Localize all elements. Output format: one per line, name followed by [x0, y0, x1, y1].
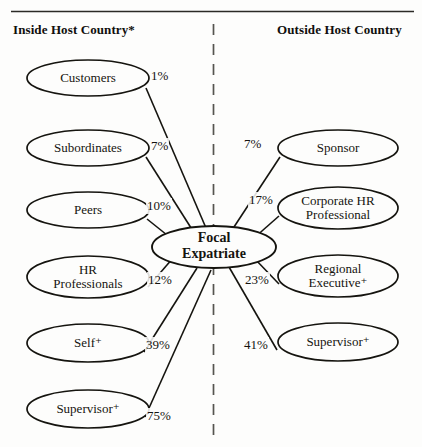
percent-supervisor-out: 41% [243, 337, 269, 353]
ellipses-inside [27, 60, 149, 428]
figure-root: Inside Host Country* Outside Host Countr… [0, 0, 422, 447]
node-sponsor[interactable] [278, 130, 398, 166]
percent-corporate-hr: 17% [248, 192, 274, 208]
node-focal-expatriate[interactable] [152, 226, 276, 268]
percent-regional-executive: 23% [244, 272, 270, 288]
node-regional-executive[interactable] [278, 255, 398, 297]
diagram-canvas [0, 0, 422, 447]
node-supervisor-in[interactable] [27, 390, 149, 428]
percent-hr-professionals: 12% [147, 272, 173, 288]
node-self[interactable] [27, 324, 149, 362]
header-outside-host-country: Outside Host Country [277, 22, 402, 38]
percent-sponsor: 7% [243, 136, 262, 152]
node-peers[interactable] [27, 192, 149, 228]
node-subordinates[interactable] [27, 130, 149, 166]
percent-self: 39% [145, 337, 171, 353]
percent-supervisor-in: 75% [146, 408, 172, 424]
node-customers[interactable] [27, 60, 149, 96]
node-hr-professionals[interactable] [27, 256, 149, 298]
header-inside-host-country: Inside Host Country* [13, 22, 135, 38]
percent-peers: 10% [146, 198, 172, 214]
edge-subordinates [146, 157, 193, 231]
node-corporate-hr[interactable] [278, 187, 398, 229]
percent-customers: 1% [150, 68, 169, 84]
ellipses-outside [278, 130, 398, 361]
node-supervisor-out[interactable] [278, 323, 398, 361]
percent-subordinates: 7% [150, 138, 169, 154]
